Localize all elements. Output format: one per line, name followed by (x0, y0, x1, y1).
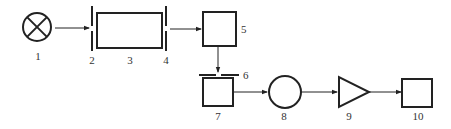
label-7: 7 (215, 110, 221, 122)
component-8-circle (269, 76, 301, 108)
component-1-lamp (23, 13, 51, 41)
label-1: 1 (35, 50, 41, 62)
component-10-square (402, 79, 432, 107)
label-8: 8 (281, 110, 287, 122)
component-9-triangle (339, 77, 369, 107)
component-3-rectangle (97, 13, 162, 48)
label-10: 10 (413, 110, 425, 122)
label-2: 2 (89, 54, 95, 66)
component-7-square (203, 78, 233, 106)
label-4: 4 (163, 54, 169, 66)
label-9: 9 (346, 110, 352, 122)
block-diagram: 1 2 3 4 5 6 7 8 9 10 (0, 0, 451, 129)
label-3: 3 (127, 54, 133, 66)
label-5: 5 (241, 23, 247, 35)
component-5-square (203, 12, 236, 46)
label-6: 6 (243, 69, 249, 81)
